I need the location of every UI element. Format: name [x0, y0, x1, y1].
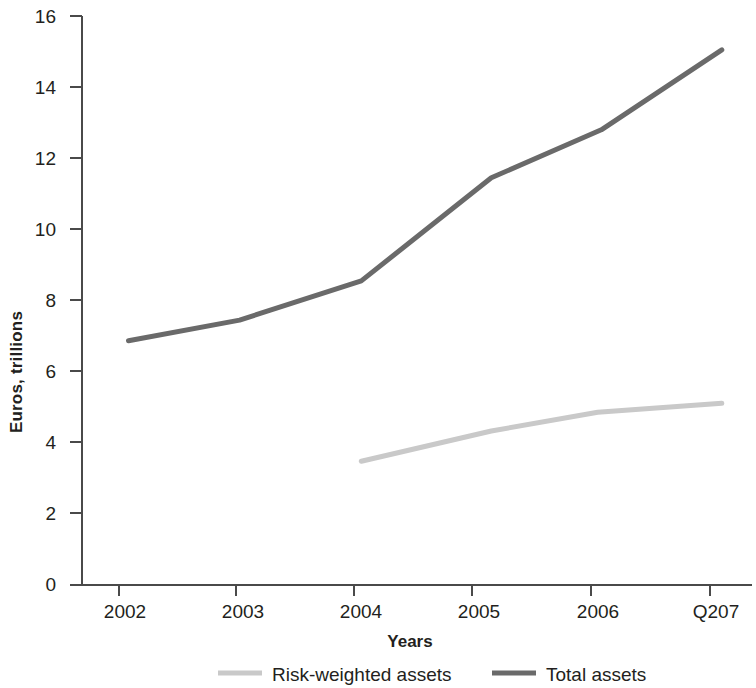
chart-legend: Risk-weighted assets Total assets — [218, 664, 646, 685]
x-tick-label: 2006 — [577, 601, 619, 622]
y-tick-label: 2 — [45, 503, 56, 524]
y-tick-label: 4 — [45, 432, 56, 453]
y-tick-label: 14 — [35, 77, 57, 98]
y-axis — [70, 16, 82, 585]
legend-label-total-assets: Total assets — [546, 664, 646, 685]
x-tick-label: 2002 — [104, 601, 146, 622]
y-axis-title: Euros, trillions — [7, 311, 26, 433]
legend-label-risk-weighted-assets: Risk-weighted assets — [272, 664, 452, 685]
y-tick-label: 12 — [35, 148, 56, 169]
chart-figure: Euros, trillions 16 14 12 10 8 6 4 2 0 — [0, 0, 756, 688]
x-tick-label: Q207 — [693, 601, 739, 622]
x-tick-label: 2005 — [458, 601, 500, 622]
x-axis-title: Years — [387, 632, 432, 651]
x-tick-label: 2004 — [340, 601, 383, 622]
y-tick-label: 16 — [35, 6, 56, 27]
y-tick-label: 8 — [45, 290, 56, 311]
series-line-total-assets — [129, 50, 722, 341]
line-chart-canvas: Euros, trillions 16 14 12 10 8 6 4 2 0 — [0, 0, 756, 688]
x-axis — [82, 585, 752, 596]
y-tick-label: 10 — [35, 219, 56, 240]
y-tick-label: 6 — [45, 361, 56, 382]
series-line-risk-weighted-assets — [361, 403, 722, 461]
x-tick-label: 2003 — [222, 601, 264, 622]
y-tick-label: 0 — [45, 574, 56, 595]
